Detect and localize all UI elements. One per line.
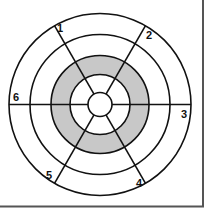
label-4: 4 bbox=[136, 177, 143, 189]
label-6: 6 bbox=[13, 91, 19, 103]
label-3: 3 bbox=[181, 108, 187, 120]
label-5: 5 bbox=[46, 169, 52, 181]
label-2: 2 bbox=[146, 29, 152, 41]
center-circle bbox=[88, 93, 112, 117]
label-1: 1 bbox=[57, 22, 63, 34]
ring-diagram: 1 2 3 4 5 6 bbox=[0, 0, 205, 211]
